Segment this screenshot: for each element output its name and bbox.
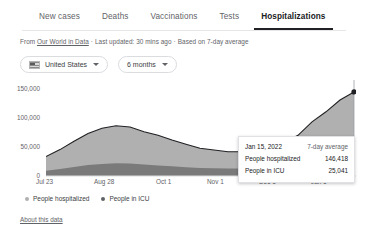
range-dropdown[interactable]: 6 months bbox=[118, 56, 177, 73]
us-flag-icon bbox=[29, 61, 40, 69]
tooltip-date: Jan 15, 2022 bbox=[245, 141, 282, 153]
tooltip-row-hospitalized: People hospitalized 146,418 bbox=[245, 153, 348, 165]
tooltip-row-icu: People in ICU 25,041 bbox=[245, 165, 348, 177]
legend-item-hospitalized[interactable]: People hospitalized bbox=[25, 195, 89, 202]
legend-dot-icon bbox=[101, 197, 105, 201]
legend-dot-icon bbox=[25, 197, 29, 201]
chevron-down-icon bbox=[93, 63, 99, 66]
chart-controls: United States 6 months bbox=[20, 56, 177, 73]
y-axis-tick-0: 0 bbox=[0, 172, 40, 179]
chevron-down-icon bbox=[162, 63, 168, 66]
tooltip-average-label: 7-day average bbox=[307, 141, 348, 153]
last-updated-label: Last updated: 30 mins ago bbox=[95, 38, 172, 45]
legend-label-icu: People in ICU bbox=[109, 195, 149, 202]
tooltip-header-row: Jan 15, 2022 7-day average bbox=[245, 141, 348, 153]
tab-strip: New cases Deaths Vaccinations Tests Hosp… bbox=[28, 11, 337, 30]
source-attribution: From Our World in Data·Last updated: 30 … bbox=[20, 38, 249, 45]
source-from-label: From bbox=[20, 38, 35, 45]
region-dropdown[interactable]: United States bbox=[20, 56, 108, 73]
tab-new-cases[interactable]: New cases bbox=[28, 11, 91, 30]
source-link[interactable]: Our World in Data bbox=[37, 38, 89, 45]
tab-bar: New cases Deaths Vaccinations Tests Hosp… bbox=[0, 0, 370, 31]
y-axis-tick-150000: 150,000 bbox=[0, 85, 40, 92]
tooltip-hospitalized-label: People hospitalized bbox=[245, 153, 300, 165]
legend-label-hospitalized: People hospitalized bbox=[33, 195, 89, 202]
range-dropdown-label: 6 months bbox=[127, 61, 156, 68]
tab-vaccinations[interactable]: Vaccinations bbox=[140, 11, 209, 30]
tab-divider bbox=[22, 30, 346, 31]
tooltip-hospitalized-value: 146,418 bbox=[325, 153, 348, 165]
tooltip-icu-label: People in ICU bbox=[245, 165, 284, 177]
y-axis-tick-50000: 50,000 bbox=[0, 143, 40, 150]
tab-tests[interactable]: Tests bbox=[209, 11, 251, 30]
chart-tooltip: Jan 15, 2022 7-day average People hospit… bbox=[238, 136, 355, 183]
x-axis-tick-oct-1: Oct 1 bbox=[156, 178, 171, 185]
y-axis-tick-100000: 100,000 bbox=[0, 114, 40, 121]
x-axis-tick-jul-23: Jul 23 bbox=[36, 178, 53, 185]
tab-hospitalizations[interactable]: Hospitalizations bbox=[250, 11, 336, 30]
average-basis-label: Based on 7-day average bbox=[178, 38, 249, 45]
x-axis-tick-nov-1: Nov 1 bbox=[207, 178, 224, 185]
region-dropdown-label: United States bbox=[45, 61, 87, 68]
about-this-data-link[interactable]: About this data bbox=[20, 216, 63, 223]
tooltip-icu-value: 25,041 bbox=[328, 165, 348, 177]
tab-deaths[interactable]: Deaths bbox=[91, 11, 140, 30]
legend-item-icu[interactable]: People in ICU bbox=[101, 195, 149, 202]
x-axis-tick-aug-28: Aug 28 bbox=[94, 178, 114, 185]
chart-legend: People hospitalized People in ICU bbox=[25, 195, 149, 202]
